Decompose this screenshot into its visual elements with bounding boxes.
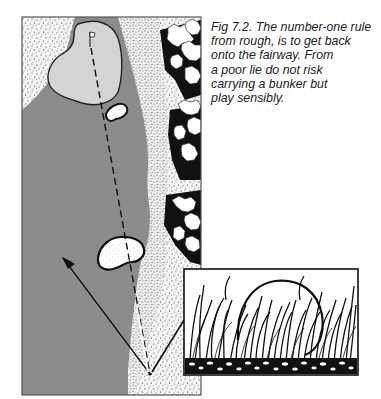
ball-in-rough-closeup (184, 269, 358, 375)
caption-line: onto the fairway. From (211, 48, 381, 62)
caption-line: play sensibly. (211, 91, 381, 105)
hole-map (22, 17, 201, 395)
caption-line: carrying a bunker but (211, 77, 381, 91)
caption-line: a poor lie do not risk (211, 63, 381, 77)
caption-line: Fig 7.2. The number-one rule (211, 20, 381, 34)
ball-position (148, 372, 151, 375)
figure-caption: Fig 7.2. The number-one rule from rough,… (211, 20, 381, 105)
caption-line: from rough, is to get back (211, 34, 381, 48)
